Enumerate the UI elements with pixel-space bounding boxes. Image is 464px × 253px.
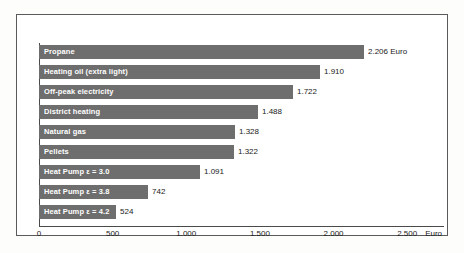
bar-category-label: Propane	[44, 45, 75, 59]
bar-category-label: Heat Pump ε = 4.2	[44, 205, 110, 219]
bar-category-label: Heat Pump ε = 3.0	[44, 165, 110, 179]
x-axis-line	[39, 226, 444, 227]
x-axis-tick-label: 2.500	[397, 229, 417, 238]
bar-value-label: 1.910	[324, 65, 344, 79]
bar-category-label: District heating	[44, 105, 100, 119]
bar-value-label: 1.322	[238, 145, 258, 159]
bar-category-label: Heat Pump ε = 3.8	[44, 185, 110, 199]
bar-value-label: 1.091	[204, 165, 224, 179]
bar-value-label: 1.488	[262, 105, 282, 119]
x-axis-tick-label: 1.000	[176, 229, 196, 238]
bar-row: Heating oil (extra light)1.910	[39, 65, 447, 79]
bar-row: Heat Pump ε = 3.8742	[39, 185, 447, 199]
bar-category-label: Off-peak electricity	[44, 85, 114, 99]
bar-value-label: 742	[152, 185, 165, 199]
bar-value-label: 524	[120, 205, 133, 219]
bar-value-label: 1.722	[297, 85, 317, 99]
x-axis-tick-label: 2.000	[324, 229, 344, 238]
bar-category-label: Pellets	[44, 145, 69, 159]
chart-figure: Propane2.206 EuroHeating oil (extra ligh…	[0, 0, 464, 253]
chart-frame: Propane2.206 EuroHeating oil (extra ligh…	[16, 14, 448, 236]
bar-row: District heating1.488	[39, 105, 447, 119]
bar-row: Off-peak electricity1.722	[39, 85, 447, 99]
x-axis-tick-label: 1.500	[250, 229, 270, 238]
bar-row: Heat Pump ε = 4.2524	[39, 205, 447, 219]
bar-row: Propane2.206 Euro	[39, 45, 447, 59]
bar[interactable]	[39, 45, 364, 59]
x-axis-tick-label: 0	[37, 229, 41, 238]
bar-category-label: Natural gas	[44, 125, 86, 139]
bar-row: Heat Pump ε = 3.01.091	[39, 165, 447, 179]
bar-row: Natural gas1.328	[39, 125, 447, 139]
bar-row: Pellets1.322	[39, 145, 447, 159]
x-axis-tick-label: 500	[106, 229, 119, 238]
bar-value-label: 2.206 Euro	[368, 45, 407, 59]
x-axis-unit-label: Euro	[425, 229, 442, 238]
bar-category-label: Heating oil (extra light)	[44, 65, 128, 79]
bar-value-label: 1.328	[239, 125, 259, 139]
